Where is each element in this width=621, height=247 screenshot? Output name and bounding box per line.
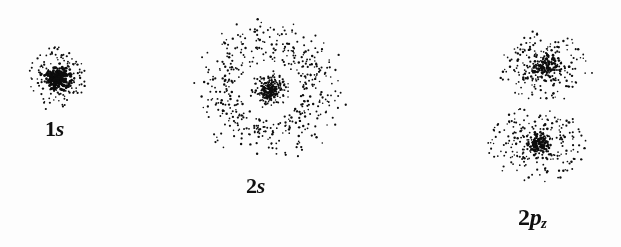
orbital-label-2pz: 2pz — [518, 205, 547, 229]
orbital-figure: 1s 2s 2pz — [0, 0, 621, 247]
orbital-label-2pz-n: 2 — [518, 204, 530, 230]
orbital-label-2pz-subscript: z — [541, 215, 547, 231]
orbital-label-2pz-letter: p — [530, 204, 542, 230]
